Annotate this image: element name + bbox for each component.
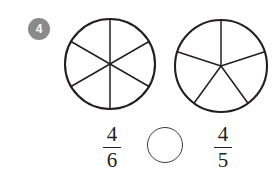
fraction-circle-six-parts bbox=[63, 17, 157, 111]
worksheet-problem: 4 4 6 bbox=[0, 0, 280, 182]
comparison-answer-blank[interactable] bbox=[147, 127, 183, 163]
fraction-left-numerator: 4 bbox=[89, 124, 135, 145]
fraction-right: 4 5 bbox=[200, 124, 246, 171]
fraction-right-denominator: 5 bbox=[200, 150, 246, 171]
answer-row: 4 6 4 5 bbox=[0, 118, 280, 178]
fraction-circle-five-parts bbox=[173, 18, 271, 116]
fraction-left: 4 6 bbox=[89, 124, 135, 171]
question-number-badge: 4 bbox=[28, 18, 50, 40]
fraction-right-numerator: 4 bbox=[200, 124, 246, 145]
fraction-left-denominator: 6 bbox=[89, 150, 135, 171]
